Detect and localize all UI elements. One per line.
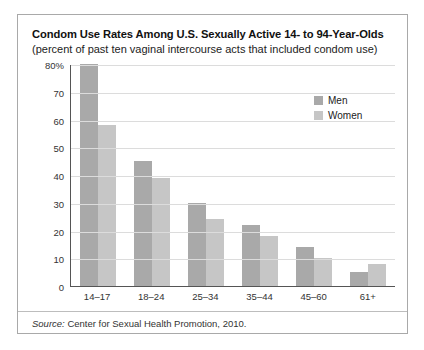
gridline — [71, 232, 395, 233]
y-axis-tick-label: 50 — [53, 143, 64, 154]
x-axis-tick-label: 35–44 — [233, 288, 287, 304]
bar-men[interactable] — [134, 161, 152, 286]
bar-men[interactable] — [242, 225, 260, 286]
x-axis-tick-label: 61+ — [341, 288, 395, 304]
bar-women[interactable] — [206, 219, 224, 286]
bar-men[interactable] — [188, 203, 206, 286]
y-axis-tick-label: 10 — [53, 254, 64, 265]
y-axis-tick-label: 20 — [53, 226, 64, 237]
bar-men[interactable] — [296, 247, 314, 286]
y-axis-tick-label: 0 — [59, 282, 64, 293]
y-axis-tick-label: 30 — [53, 198, 64, 209]
gridline — [71, 93, 395, 94]
footer-divider — [18, 311, 407, 312]
page-title: Condom Use Rates Among U.S. Sexually Act… — [32, 27, 397, 41]
x-axis: 14–1718–2425–3435–4445–6061+ — [70, 288, 395, 304]
source-note: Source: Center for Sexual Health Promoti… — [32, 318, 246, 329]
gridline — [71, 176, 395, 177]
bar-women[interactable] — [368, 264, 386, 286]
y-axis-tick-label: 40 — [53, 171, 64, 182]
title-block: Condom Use Rates Among U.S. Sexually Act… — [32, 27, 397, 56]
x-axis-tick-label: 25–34 — [178, 288, 232, 304]
y-axis-tick-label: 60 — [53, 115, 64, 126]
bar-women[interactable] — [260, 236, 278, 286]
chart-subtitle: (percent of past ten vaginal intercourse… — [32, 42, 397, 56]
gridline — [71, 65, 395, 66]
chart-figure: Condom Use Rates Among U.S. Sexually Act… — [17, 14, 408, 334]
bar-men[interactable] — [80, 64, 98, 286]
source-label: Source: — [32, 318, 65, 329]
plot-wrapper: 01020304050607080% 14–1718–2425–3435–444… — [32, 65, 395, 305]
x-axis-tick-label: 14–17 — [70, 288, 124, 304]
y-axis-tick-label: 80% — [45, 60, 64, 71]
y-axis-tick-label: 70 — [53, 87, 64, 98]
gridline — [71, 204, 395, 205]
plot-area — [70, 65, 395, 287]
x-axis-tick-label: 18–24 — [124, 288, 178, 304]
y-axis: 01020304050607080% — [32, 65, 68, 287]
gridline — [71, 148, 395, 149]
bar-women[interactable] — [314, 258, 332, 286]
gridline — [71, 259, 395, 260]
x-axis-tick-label: 45–60 — [287, 288, 341, 304]
bar-men[interactable] — [350, 272, 368, 286]
gridline — [71, 121, 395, 122]
source-text: Center for Sexual Health Promotion, 2010… — [65, 318, 247, 329]
